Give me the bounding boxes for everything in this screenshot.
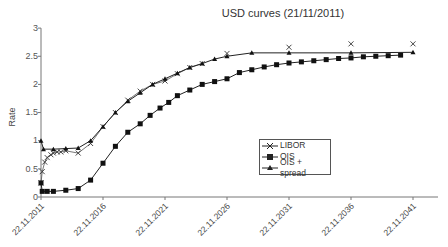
usd-curves-chart: USD curves (21/11/2011) Rate 0 0.5 1 1.5… (0, 0, 448, 247)
legend-item-libor: LIBOR (260, 140, 330, 151)
legend: LIBOR OIS OIS + spread (259, 139, 331, 175)
square-marker-icon (262, 153, 278, 161)
legend-item-ois-spread: OIS + spread (260, 162, 330, 173)
triangle-marker-icon (262, 164, 278, 172)
x-marker-icon (262, 142, 278, 150)
legend-label: OIS + spread (280, 157, 330, 179)
legend-label: LIBOR (280, 140, 306, 151)
